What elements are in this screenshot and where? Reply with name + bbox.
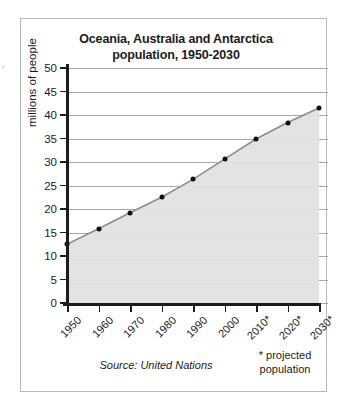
y-axis-tick-label: 25: [44, 180, 57, 192]
y-axis-tick-label: 5: [51, 274, 57, 286]
x-axis-tick: [99, 304, 101, 312]
area-chart-svg: [67, 68, 319, 303]
x-axis-tick-label: 2010*: [245, 313, 274, 342]
projection-note-line-1: * projected: [246, 348, 324, 362]
x-axis-tick-label: 1960: [89, 314, 115, 340]
y-axis-tick-label: 45: [44, 86, 57, 98]
y-axis-tick: [60, 114, 67, 116]
data-point: [128, 210, 133, 215]
y-axis-tick-label: 30: [44, 156, 57, 168]
y-axis-tick-label: 35: [44, 133, 57, 145]
y-axis-title: millions of people: [26, 38, 38, 127]
data-point: [285, 120, 290, 125]
area-fill-polygon: [67, 108, 319, 303]
x-axis-tick: [319, 304, 321, 312]
data-point: [159, 195, 164, 200]
y-axis-tick: [60, 91, 67, 93]
y-axis-tick: [60, 302, 67, 304]
chart-title-line-2: population, 1950-2030: [45, 47, 307, 63]
y-axis-tick-label: 20: [44, 203, 57, 215]
y-axis-tick: [60, 279, 67, 281]
x-axis-line: [63, 303, 321, 306]
x-axis-tick-label: 1990: [184, 314, 210, 340]
chart-figure: Oceania, Australia and Antarctica popula…: [20, 18, 327, 392]
chart-title: Oceania, Australia and Antarctica popula…: [45, 31, 307, 63]
plot-area: 05101520253035404550 1950196019701980199…: [67, 68, 319, 303]
y-axis-tick: [60, 67, 67, 69]
y-axis-tick-label: 0: [51, 297, 57, 309]
y-axis-tick-label: 50: [44, 62, 57, 74]
data-point: [222, 157, 227, 162]
y-axis-tick: [60, 232, 67, 234]
x-axis-tick-label: 1950: [58, 314, 84, 340]
x-axis-tick-label: 2030*: [308, 313, 337, 342]
x-axis-tick-label: 1980: [152, 314, 178, 340]
x-axis-tick: [130, 304, 132, 312]
x-axis-tick: [67, 304, 69, 312]
data-point: [254, 136, 259, 141]
x-axis-tick: [193, 304, 195, 312]
data-point: [96, 226, 101, 231]
y-axis-tick: [60, 208, 67, 210]
projection-note-line-2: population: [246, 362, 324, 376]
y-axis-tick: [60, 255, 67, 257]
data-point: [191, 177, 196, 182]
data-point: [317, 105, 322, 110]
source-note: Source: United Nations: [71, 359, 241, 371]
x-axis-tick: [256, 304, 258, 312]
x-axis-tick-label: 2020*: [276, 313, 305, 342]
scan-artifact: r: [2, 62, 9, 71]
x-axis-tick: [225, 304, 227, 312]
y-axis-tick-label: 10: [44, 250, 57, 262]
x-axis-tick-label: 1970: [121, 314, 147, 340]
y-axis-tick: [60, 185, 67, 187]
chart-title-line-1: Oceania, Australia and Antarctica: [45, 31, 307, 47]
y-axis-tick-label: 40: [44, 109, 57, 121]
x-axis-tick-label: 2000: [215, 314, 241, 340]
y-axis-tick: [60, 138, 67, 140]
y-axis-tick: [60, 161, 67, 163]
projection-note: * projected population: [246, 348, 324, 376]
x-axis-tick: [288, 304, 290, 312]
area-series-fill: [67, 68, 319, 303]
x-axis-tick: [162, 304, 164, 312]
y-axis-tick-label: 15: [44, 227, 57, 239]
